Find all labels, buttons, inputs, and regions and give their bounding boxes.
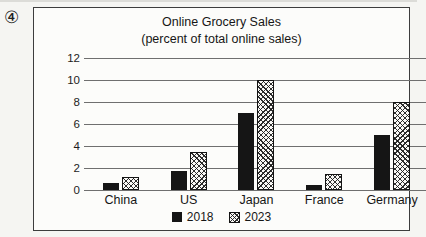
- x-axis-label-japan: Japan: [223, 193, 291, 207]
- x-axis-label-germany: Germany: [358, 193, 426, 207]
- bar-france-2023: [325, 174, 342, 191]
- bar-japan-2023: [257, 80, 274, 190]
- legend-label-2023: 2023: [245, 210, 272, 224]
- y-tick-label-6: 6: [37, 118, 80, 130]
- chart-subtitle: (percent of total online sales): [34, 31, 409, 48]
- chart-frame: Online Grocery Sales (percent of total o…: [33, 7, 410, 231]
- y-tick-label-2: 2: [37, 162, 80, 174]
- x-axis-label-china: China: [87, 193, 155, 207]
- bar-japan-2018: [238, 113, 254, 190]
- bars-layer: [87, 58, 426, 190]
- legend: 2018 2023: [34, 210, 409, 224]
- y-tick-label-4: 4: [37, 140, 80, 152]
- bar-group-japan: [223, 58, 291, 190]
- legend-swatch-2018-solid: [172, 212, 182, 222]
- bar-group-us: [155, 58, 223, 190]
- x-axis-labels: ChinaUSJapanFranceGermany: [87, 193, 426, 207]
- bar-germany-2023: [393, 102, 410, 190]
- bar-china-2018: [103, 183, 119, 190]
- legend-item-2023: 2023: [229, 210, 272, 224]
- plot-area: 121086420: [87, 58, 426, 190]
- bar-us-2023: [190, 152, 207, 191]
- scan-edge-artifact: [0, 0, 417, 2]
- bar-germany-2018: [374, 135, 390, 190]
- chart-title: Online Grocery Sales: [34, 14, 409, 31]
- bar-france-2018: [306, 185, 322, 191]
- chart-title-block: Online Grocery Sales (percent of total o…: [34, 8, 409, 49]
- legend-swatch-2023-crosshatch: [229, 212, 240, 223]
- y-tick-label-12: 12: [37, 52, 80, 64]
- legend-item-2018: 2018: [172, 210, 214, 224]
- bar-china-2023: [122, 177, 139, 190]
- x-axis-label-us: US: [155, 193, 223, 207]
- bar-group-germany: [358, 58, 426, 190]
- figure-number-label: ④: [4, 7, 19, 28]
- legend-label-2018: 2018: [187, 210, 214, 224]
- x-axis-label-france: France: [290, 193, 358, 207]
- y-tick-label-10: 10: [37, 74, 80, 86]
- y-tick-label-0: 0: [37, 184, 80, 196]
- bar-group-china: [87, 58, 155, 190]
- bar-us-2018: [171, 171, 187, 190]
- y-tick-label-8: 8: [37, 96, 80, 108]
- gridline-y-0: [84, 190, 426, 191]
- bar-group-france: [290, 58, 358, 190]
